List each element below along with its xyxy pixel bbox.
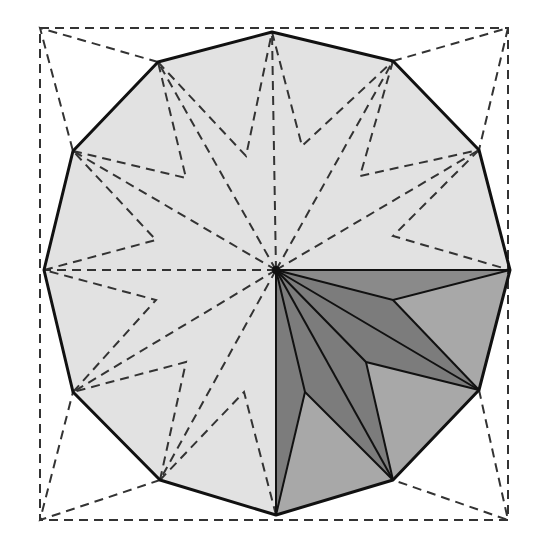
dodecagon-fold-diagram [0,0,547,553]
diagram-canvas [0,0,547,553]
center-point [272,266,280,274]
